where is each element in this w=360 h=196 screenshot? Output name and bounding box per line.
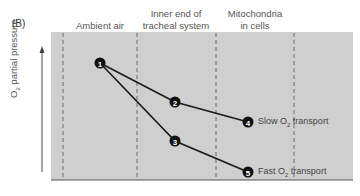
arrow-up-icon [40,46,45,53]
svg-text:3: 3 [173,138,178,147]
node-4: 4 [243,117,254,128]
fast-transport-label: Fast O2 transport [258,166,326,178]
node-3: 3 [170,136,181,147]
node-1: 1 [95,58,106,69]
svg-text:4: 4 [246,119,251,128]
svg-text:2: 2 [173,99,178,108]
slow-transport-label: Slow O2 transport [258,116,328,128]
svg-text:5: 5 [246,169,251,178]
node-5: 5 [243,167,254,178]
node-2: 2 [170,97,181,108]
plot-area [51,32,353,180]
y-axis-label: O2 partial pressure [8,19,21,98]
svg-text:1: 1 [98,60,103,69]
